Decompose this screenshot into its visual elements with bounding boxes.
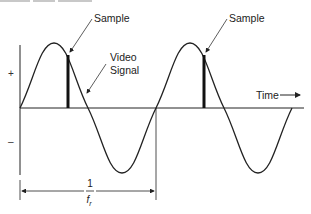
negative-sign: – — [8, 136, 14, 147]
video-signal-label-line1: Video — [110, 51, 137, 63]
sample-1-pointer — [70, 19, 92, 52]
sample-label-2: Sample — [229, 12, 265, 24]
sample-label-1: Sample — [94, 12, 130, 24]
sample-2-pointer — [206, 19, 227, 52]
period-denominator: fr — [82, 194, 96, 207]
time-axis-label: Time — [256, 89, 279, 101]
video-signal-label-line2: Signal — [110, 64, 139, 76]
positive-sign: + — [8, 68, 14, 79]
sampled-video-signal-diagram — [0, 0, 311, 214]
video-signal-pointer — [87, 64, 106, 93]
period-denominator-subscript: r — [89, 200, 91, 207]
period-numerator: 1 — [83, 178, 97, 189]
